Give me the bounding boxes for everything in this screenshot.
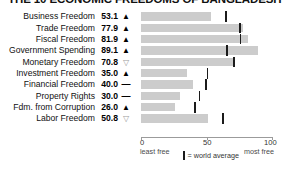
freedom-label: Fdm. from Corruption: [0, 103, 98, 112]
bar-plot-area: [141, 79, 273, 90]
page-title: THE 10 ECONOMIC FREEDOMS OF BANGLADESH: [8, 0, 282, 5]
trend-up-icon: ▲: [118, 69, 134, 78]
freedom-label: Trade Freedom: [0, 24, 98, 33]
freedom-row: Investment Freedom35.0▲: [0, 68, 283, 79]
freedom-score: 70.8: [98, 58, 118, 67]
world-average-tick: [222, 113, 224, 124]
value-bar: [141, 12, 211, 20]
freedom-row: Labor Freedom50.8▽: [0, 113, 283, 124]
freedom-score: 77.9: [98, 24, 118, 33]
freedom-label: Fiscal Freedom: [0, 35, 98, 44]
value-bar: [141, 80, 193, 88]
legend: = world average: [183, 151, 239, 160]
trend-up-icon: ▲: [118, 103, 134, 112]
trend-flat-icon: —: [118, 92, 134, 101]
chart-title-clipped: THE 10 ECONOMIC FREEDOMS OF BANGLADESH: [0, 0, 283, 9]
value-bar: [141, 24, 243, 32]
axis-most-free-label: most free: [244, 147, 274, 156]
freedom-score: 53.1: [98, 12, 118, 21]
bar-plot-area: [141, 11, 273, 22]
freedom-label: Government Spending: [0, 46, 98, 55]
trend-up-icon: ▲: [118, 24, 134, 33]
freedom-score: 40.0: [98, 80, 118, 89]
freedom-score: 89.1: [98, 46, 118, 55]
value-bar: [141, 69, 187, 77]
world-average-tick: [239, 23, 241, 34]
bar-plot-area: [141, 102, 273, 113]
freedom-row: Fiscal Freedom81.9▲: [0, 34, 283, 45]
world-average-tick: [199, 91, 201, 102]
bar-plot-area: [141, 22, 273, 33]
freedom-score: 26.0: [98, 103, 118, 112]
world-average-tick: [194, 102, 196, 113]
value-bar: [141, 92, 180, 100]
world-average-tick: [207, 68, 209, 79]
world-average-tick: [205, 79, 207, 90]
freedom-score: 81.9: [98, 35, 118, 44]
axis-label-50: 50: [203, 138, 211, 147]
world-average-marker-icon: [183, 151, 185, 160]
freedom-row: Property Rights30.0—: [0, 90, 283, 101]
freedom-row: Financial Freedom40.0—: [0, 79, 283, 90]
world-average-tick: [225, 11, 227, 22]
value-bar: [141, 58, 234, 66]
bar-plot-area: [141, 113, 273, 124]
world-average-tick: [233, 57, 235, 68]
freedom-row: Monetary Freedom70.8▽: [0, 56, 283, 67]
value-bar: [141, 114, 208, 122]
chart-container: THE 10 ECONOMIC FREEDOMS OF BANGLADESH B…: [0, 0, 283, 170]
freedom-score: 50.8: [98, 114, 118, 123]
bar-plot-area: [141, 90, 273, 101]
freedom-label: Property Rights: [0, 92, 98, 101]
freedom-row: Fdm. from Corruption26.0▲: [0, 102, 283, 113]
freedom-label: Labor Freedom: [0, 114, 98, 123]
freedom-row: Government Spending89.1▲: [0, 45, 283, 56]
bar-plot-area: [141, 34, 273, 45]
freedom-score: 35.0: [98, 69, 118, 78]
world-average-tick: [240, 34, 242, 45]
trend-up-icon: ▲: [118, 35, 134, 44]
trend-up-icon: ▲: [118, 46, 134, 55]
value-bar: [141, 46, 258, 54]
bar-plot-area: [141, 68, 273, 79]
freedom-label: Business Freedom: [0, 12, 98, 21]
trend-down-icon: ▽: [118, 58, 134, 67]
bar-plot-area: [141, 56, 273, 67]
value-bar: [141, 103, 175, 111]
trend-flat-icon: —: [118, 80, 134, 89]
bar-plot-area: [141, 45, 273, 56]
value-bar: [141, 35, 248, 43]
freedom-label: Investment Freedom: [0, 69, 98, 78]
world-average-tick: [226, 45, 228, 56]
trend-up-icon: ▲: [118, 12, 134, 21]
trend-down-icon: ▽: [118, 114, 134, 123]
freedom-row: Trade Freedom77.9▲: [0, 22, 283, 33]
legend-label: = world average: [188, 151, 239, 160]
freedom-label: Monetary Freedom: [0, 58, 98, 67]
axis-least-free-label: least free: [140, 147, 170, 156]
freedom-row: Business Freedom53.1▲: [0, 11, 283, 22]
freedom-score: 30.0: [98, 92, 118, 101]
freedom-label: Financial Freedom: [0, 80, 98, 89]
freedom-rows: Business Freedom53.1▲Trade Freedom77.9▲F…: [0, 11, 283, 124]
